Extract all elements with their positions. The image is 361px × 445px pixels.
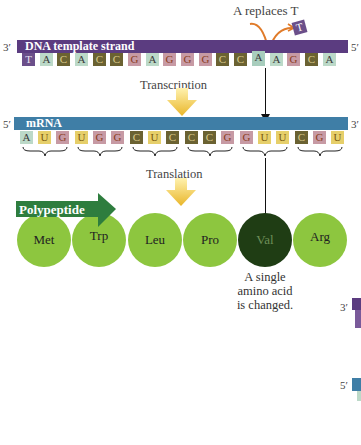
mrna-base: C (203, 131, 216, 144)
mrna-base-mutated: U (258, 131, 271, 144)
mrna-strand-bar: mRNA (14, 117, 348, 130)
dna-template-strand-bar: DNA template strand (17, 40, 348, 53)
amino-acid-leu: Leu (128, 213, 182, 267)
mrna-base: G (93, 131, 106, 144)
mrna-base: C (166, 131, 179, 144)
mrna-base: C (295, 131, 308, 144)
mrna-base: U (38, 131, 51, 144)
codon-braces (0, 146, 361, 158)
mrna-base: G (240, 131, 253, 144)
dna-base: C (216, 53, 229, 66)
amino-acid-label: Met (34, 232, 55, 248)
dna-left-end: 3′ (3, 41, 11, 53)
amino-acid-change-note: A single amino acid is changed. (225, 270, 305, 312)
dna-base: G (287, 53, 300, 66)
partial-mrna-base (357, 391, 361, 401)
mrna-right-end: 3′ (351, 118, 359, 130)
dna-base: C (57, 53, 70, 66)
dna-base: G (199, 53, 212, 66)
mrna-base: C (185, 131, 198, 144)
mrna-base: U (276, 131, 289, 144)
amino-acid-arg: Arg (293, 213, 347, 267)
dna-base: A (40, 53, 53, 66)
mrna-base: G (111, 131, 124, 144)
dna-base: C (305, 53, 318, 66)
dna-strand-label: DNA template strand (25, 39, 134, 53)
mrna-base: G (313, 131, 326, 144)
dna-base: G (181, 53, 194, 66)
partial-dna-base (355, 310, 361, 328)
amino-acid-label: Pro (201, 232, 219, 248)
mrna-base: U (331, 131, 344, 144)
dna-base: A (323, 53, 336, 66)
amino-acid-pro: Pro (183, 213, 237, 267)
amino-acid-label: Arg (310, 229, 330, 245)
note-line-3: is changed. (225, 298, 305, 312)
dna-base: G (163, 53, 176, 66)
dna-base: C (110, 53, 123, 66)
mrna-left-end: 5′ (3, 118, 11, 130)
dna-base: G (128, 53, 141, 66)
dna-base: A (75, 53, 88, 66)
partial-dna-strand (352, 298, 361, 310)
amino-acid-label: Leu (145, 232, 165, 248)
mutation-line-upper (265, 68, 266, 120)
mrna-base: C (130, 131, 143, 144)
partial-top-end: 3′ (340, 301, 348, 313)
dna-base-mutated: A (252, 51, 265, 66)
dna-base: T (22, 53, 35, 66)
mrna-base: G (221, 131, 234, 144)
mutation-label: A replaces T (233, 3, 298, 19)
mrna-base: A (20, 131, 33, 144)
dna-base: C (234, 53, 247, 66)
polypeptide-label: Polypeptide (19, 202, 85, 218)
dna-base: C (93, 53, 106, 66)
removed-base-letter: T (295, 20, 305, 33)
dna-base: A (270, 53, 283, 66)
amino-acid-val-changed: Val (238, 213, 292, 267)
amino-acid-label: Val (256, 232, 273, 248)
translation-arrow-icon (165, 178, 197, 206)
mrna-base: U (75, 131, 88, 144)
note-line-2: amino acid (225, 284, 305, 298)
mrna-base: U (148, 131, 161, 144)
mrna-base: G (56, 131, 69, 144)
mrna-strand-label: mRNA (22, 116, 62, 130)
dna-base: A (146, 53, 159, 66)
partial-bottom-end: 5′ (340, 379, 348, 391)
transcription-arrow-icon (166, 88, 198, 116)
partial-mrna-strand (352, 378, 361, 391)
dna-right-end: 5′ (351, 41, 359, 53)
dna-bases-row: T A C A C C G A G G G C C A A G C A (0, 53, 361, 67)
note-line-1: A single (225, 270, 305, 284)
mrna-bases-row: A U G U G G C U C C C G G U U C G U (0, 131, 361, 145)
